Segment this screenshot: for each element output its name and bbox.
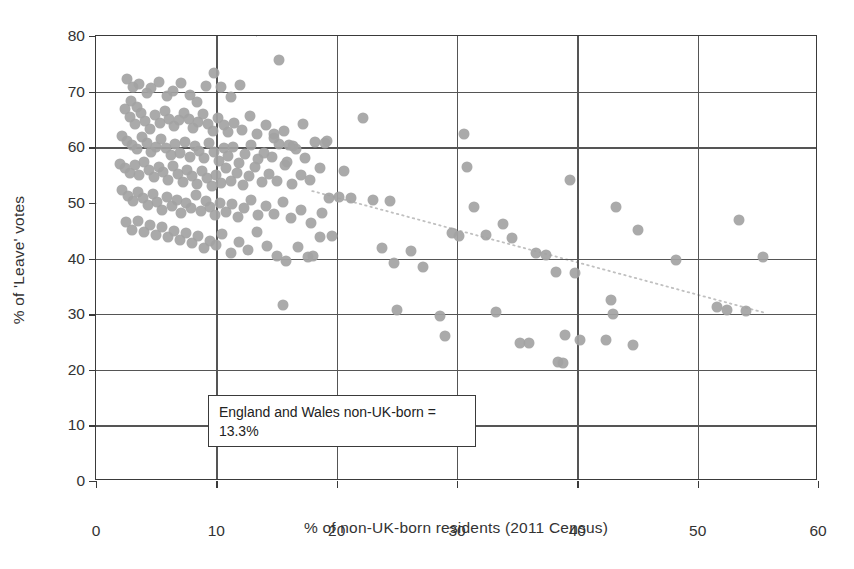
scatter-plot-figure: % of 'Leave' votes 010203040506001020304…: [0, 0, 854, 569]
data-point: [346, 193, 357, 204]
data-point: [480, 230, 491, 241]
data-point: [231, 167, 242, 178]
data-point: [208, 67, 219, 78]
data-point: [220, 163, 231, 174]
gridline-horizontal: [96, 203, 97, 204]
data-point: [608, 309, 619, 320]
data-point: [367, 194, 378, 205]
data-point: [210, 210, 221, 221]
data-point: [285, 213, 296, 224]
gridline-horizontal: [96, 370, 816, 371]
data-point: [199, 153, 210, 164]
data-point: [131, 144, 142, 155]
data-point: [671, 254, 682, 265]
data-point: [314, 163, 325, 174]
data-point: [225, 247, 236, 258]
annotation-box-national-average: England and Wales non-UK-born =13.3%: [208, 395, 476, 447]
y-axis-tick: [89, 36, 96, 37]
data-point: [550, 266, 561, 277]
data-point: [468, 202, 479, 213]
y-axis-tick: [89, 147, 96, 148]
annotation-line-2: 13.3%: [219, 422, 466, 441]
data-point: [757, 252, 768, 263]
data-point: [287, 178, 298, 189]
data-point: [245, 111, 256, 122]
data-point: [461, 162, 472, 173]
data-point: [281, 255, 292, 266]
data-point: [334, 192, 345, 203]
data-point: [266, 152, 277, 163]
data-point: [300, 153, 311, 164]
data-point: [216, 82, 227, 93]
data-point: [574, 334, 585, 345]
data-point: [565, 174, 576, 185]
data-point: [307, 251, 318, 262]
y-axis-tick-label: 10: [68, 416, 85, 434]
y-axis-tick-label: 70: [68, 83, 85, 101]
x-axis-tick: [96, 481, 97, 488]
y-axis-tick-label: 60: [68, 138, 85, 156]
data-point: [305, 174, 316, 185]
data-point: [326, 231, 337, 242]
data-point: [507, 233, 518, 244]
x-axis-tick: [577, 481, 578, 488]
y-axis-tick-label: 20: [68, 361, 85, 379]
data-point: [439, 331, 450, 342]
y-axis-tick: [89, 314, 96, 315]
data-point: [277, 300, 288, 311]
data-point: [733, 214, 744, 225]
data-point: [279, 160, 290, 171]
data-point: [721, 304, 732, 315]
gridline-horizontal: [96, 314, 816, 315]
data-point: [217, 229, 228, 240]
data-point: [228, 142, 239, 153]
data-point: [497, 219, 508, 230]
x-axis-tick: [457, 481, 458, 488]
data-point: [293, 242, 304, 253]
data-point: [740, 305, 751, 316]
data-point: [524, 338, 535, 349]
y-axis-tick: [89, 259, 96, 260]
data-point: [606, 294, 617, 305]
data-point: [246, 194, 257, 205]
data-point: [377, 243, 388, 254]
y-axis-tick: [89, 425, 96, 426]
data-point: [306, 217, 317, 228]
data-point: [297, 118, 308, 129]
data-point: [317, 207, 328, 218]
data-point: [133, 215, 144, 226]
y-axis-tick-label: 0: [76, 472, 85, 490]
data-point: [200, 81, 211, 92]
data-point: [184, 152, 195, 163]
data-point: [269, 128, 280, 139]
data-point: [246, 140, 257, 151]
data-point: [384, 195, 395, 206]
data-point: [627, 340, 638, 351]
data-point: [560, 330, 571, 341]
y-axis-tick-label: 50: [68, 194, 85, 212]
data-point: [271, 175, 282, 186]
data-point: [277, 196, 288, 207]
data-point: [418, 262, 429, 273]
plot-area: 010203040506001020304050607080England an…: [95, 35, 817, 480]
data-point: [283, 140, 294, 151]
data-point: [273, 55, 284, 66]
y-axis-label: % of 'Leave' votes: [10, 150, 28, 370]
data-point: [278, 126, 289, 137]
x-axis-tick: [698, 481, 699, 488]
gridline-horizontal: [96, 92, 816, 93]
data-point: [459, 128, 470, 139]
data-point: [192, 97, 203, 108]
data-point: [236, 125, 247, 136]
data-point: [314, 232, 325, 243]
data-point: [239, 203, 250, 214]
data-point: [338, 165, 349, 176]
data-point: [490, 306, 501, 317]
annotation-line-1: England and Wales non-UK-born =: [219, 403, 466, 422]
x-axis-tick: [337, 481, 338, 488]
x-axis-tick: [818, 481, 819, 488]
data-point: [541, 250, 552, 261]
gridline-vertical: [698, 36, 699, 479]
data-point: [193, 231, 204, 242]
x-axis-label: % of non-UK-born residents (2011 Census): [95, 519, 817, 537]
